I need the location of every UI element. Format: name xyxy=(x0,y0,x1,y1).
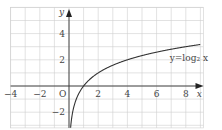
log-graph: −4−2246842−2 x y O y=log₂ x xyxy=(0,0,222,130)
x-tick-label: −4 xyxy=(4,89,18,99)
x-tick-label: 2 xyxy=(95,89,101,99)
y-tick-label: 2 xyxy=(59,55,65,65)
x-tick-label: 6 xyxy=(154,89,160,99)
y-tick-label: −2 xyxy=(52,107,65,117)
x-tick-label: 4 xyxy=(125,89,131,99)
x-axis-label: x xyxy=(197,89,202,99)
x-tick-label: 8 xyxy=(183,89,189,99)
y-axis-label: y xyxy=(58,7,65,17)
x-tick-label: −2 xyxy=(33,89,46,99)
y-axis-arrow-icon xyxy=(66,9,72,17)
curve-label: y=log₂ x xyxy=(169,53,208,63)
y-tick-label: 4 xyxy=(59,29,65,39)
origin-label: O xyxy=(59,89,66,99)
